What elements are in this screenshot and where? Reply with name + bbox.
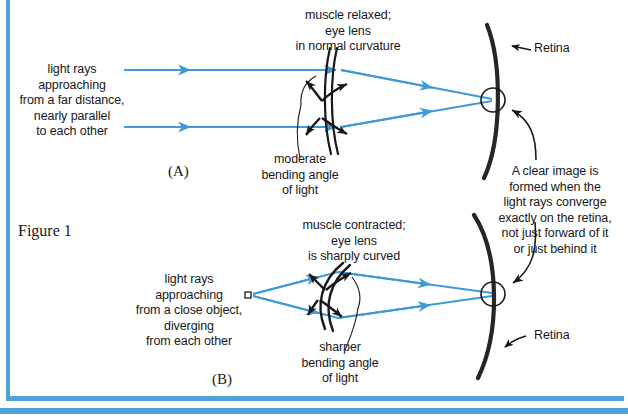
panel-a-refracted-ray-bottom-arrow <box>341 111 432 127</box>
panel-b-bending-label: sharper bending angle of light <box>280 340 400 387</box>
panel-a-bend-arrow-top-left <box>306 81 322 101</box>
panel-a-focus-circle <box>481 88 505 112</box>
panel-b-retina-label: Retina <box>534 328 604 344</box>
panel-a-source-label: light rays approaching from a far distan… <box>18 62 126 140</box>
figure-caption: Figure 1 <box>18 222 72 240</box>
panel-b-id: (B) <box>212 371 232 388</box>
panel-b-refracted-ray-top-arrow <box>338 272 430 285</box>
panel-a-retina-label: Retina <box>534 41 604 57</box>
panel-b-angle-arc-top <box>352 277 360 308</box>
panel-a-angle-leader <box>297 105 301 158</box>
panel-a-lens-outer <box>325 48 331 154</box>
panel-b-source-label: light rays approaching from a close obje… <box>130 272 248 350</box>
panel-a-focus-leader <box>512 110 536 160</box>
panel-a-lens-inner <box>332 48 338 154</box>
panel-a-retina-leader <box>512 46 531 50</box>
panel-b-incoming-ray-top-arrow <box>253 277 318 294</box>
panel-a-bending-label: moderate bending angle of light <box>244 152 356 199</box>
figure-diagram: Figure 1 light rays approaching from a f… <box>0 0 628 417</box>
panel-b-retina-leader <box>505 336 526 347</box>
panel-b-refracted-ray-bottom-arrow <box>338 305 430 318</box>
panel-a-focus-label: A clear image is formed when the light r… <box>482 164 628 257</box>
panel-a-lens-label: muscle relaxed; eye lens in normal curva… <box>268 8 428 55</box>
panel-a-refracted-ray-top-arrow <box>341 70 432 88</box>
panel-b-incoming-ray-bottom-arrow <box>253 296 318 313</box>
panel-b-lens-label: muscle contracted; eye lens is sharply c… <box>278 218 430 265</box>
panel-a-id: (A) <box>168 163 189 180</box>
